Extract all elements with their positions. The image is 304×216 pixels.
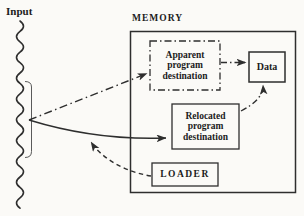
- relocation-diagram: Input MEMORY Apparent program destinatio…: [0, 0, 304, 216]
- apparent-destination-label: Apparent program destination: [150, 41, 220, 90]
- relocated-line-3: destination: [183, 132, 228, 143]
- apparent-line-3: destination: [163, 71, 208, 82]
- loader-label: LOADER: [152, 163, 218, 186]
- loader-text: LOADER: [160, 169, 210, 180]
- arrow-relocated-to-data: [241, 85, 263, 111]
- apparent-line-1: Apparent: [166, 50, 205, 61]
- data-text: Data: [257, 62, 278, 73]
- data-label: Data: [249, 52, 285, 82]
- relocated-destination-label: Relocated program destination: [172, 104, 239, 149]
- arrow-input-to-relocated: [29, 120, 166, 138]
- arrow-input-to-apparent: [29, 74, 147, 121]
- memory-label: MEMORY: [132, 13, 183, 23]
- relocated-line-2: program: [188, 121, 224, 132]
- arrow-loader-to-input: [91, 142, 151, 176]
- relocated-line-1: Relocated: [185, 111, 225, 122]
- apparent-line-2: program: [167, 60, 203, 71]
- input-stream-wave: [17, 21, 24, 208]
- input-label: Input: [6, 5, 32, 17]
